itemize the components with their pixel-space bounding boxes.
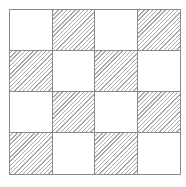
- plain-cell-r2-c2: [95, 92, 138, 133]
- hatched-cell-r1-c2: [95, 51, 138, 92]
- hatched-cell-r3-c2: [95, 133, 138, 174]
- hatched-cell-r0-c1: [53, 10, 96, 51]
- plain-cell-r1-c3: [138, 51, 181, 92]
- checkerboard-grid: [9, 9, 181, 175]
- hatched-cell-r3-c0: [10, 133, 53, 174]
- plain-cell-r0-c2: [95, 10, 138, 51]
- plain-cell-r1-c1: [53, 51, 96, 92]
- plain-cell-r2-c0: [10, 92, 53, 133]
- hatched-cell-r1-c0: [10, 51, 53, 92]
- plain-cell-r3-c3: [138, 133, 181, 174]
- hatched-cell-r2-c3: [138, 92, 181, 133]
- plain-cell-r3-c1: [53, 133, 96, 174]
- hatched-cell-r2-c1: [53, 92, 96, 133]
- hatched-cell-r0-c3: [138, 10, 181, 51]
- plain-cell-r0-c0: [10, 10, 53, 51]
